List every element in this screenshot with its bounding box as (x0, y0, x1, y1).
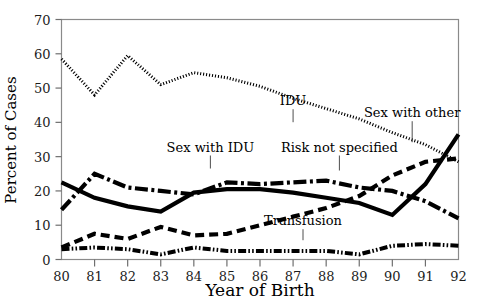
y-tick-label: 60 (34, 47, 51, 62)
x-tick-label: 89 (351, 269, 368, 284)
x-tick-label: 88 (318, 269, 335, 284)
y-tick-label: 40 (34, 115, 51, 130)
x-tick-label: 81 (86, 269, 103, 284)
x-tick-label: 83 (152, 269, 169, 284)
x-tick-label: 90 (384, 269, 401, 284)
series-label-risk_not_specified: Risk not specified (281, 140, 398, 155)
x-tick-label: 82 (119, 269, 136, 284)
chart-canvas: 010203040506070 808182838485868788899091… (0, 0, 478, 301)
y-tick-label: 70 (34, 13, 51, 28)
x-tick-label: 80 (53, 269, 70, 284)
series-label-transfusion: Transfusion (264, 213, 343, 228)
x-tick-label: 92 (450, 269, 467, 284)
y-tick-label: 10 (34, 218, 51, 233)
chart-figure: 010203040506070 808182838485868788899091… (0, 0, 478, 301)
x-axis-title: Year of Birth (204, 280, 314, 300)
series-label-sex_with_other: Sex with other (364, 105, 461, 120)
y-axis-title: Percent of Cases (2, 76, 20, 203)
y-tick-label: 50 (34, 81, 51, 96)
x-tick-label: 91 (417, 269, 434, 284)
y-tick-label: 20 (34, 184, 51, 199)
x-tick-label: 84 (186, 269, 203, 284)
y-tick-label: 30 (34, 150, 51, 165)
series-label-idu: IDU (280, 93, 307, 108)
series-label-sex_with_idu: Sex with IDU (167, 140, 255, 155)
y-tick-label: 0 (42, 253, 50, 268)
